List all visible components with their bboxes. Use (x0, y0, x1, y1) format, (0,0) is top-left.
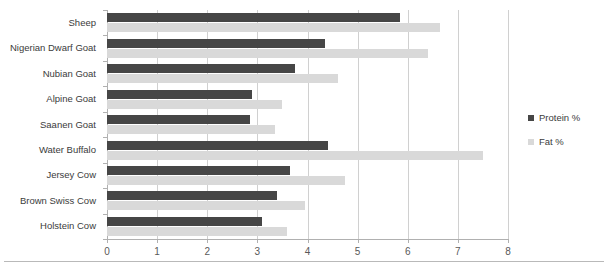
bar-fat[interactable] (107, 100, 282, 109)
bar-chart: SheepNigerian Dwarf GoatNubian GoatAlpin… (0, 0, 608, 270)
bar-fat[interactable] (107, 151, 483, 160)
bar-protein[interactable] (107, 13, 400, 22)
bar-protein[interactable] (107, 64, 295, 73)
x-tick-mark (458, 239, 459, 243)
category-label: Saanen Goat (40, 119, 96, 130)
x-tick-label: 3 (247, 246, 267, 257)
bar-group (107, 61, 508, 86)
bar-group (107, 214, 508, 239)
bottom-divider (4, 261, 604, 262)
legend-swatch-icon (528, 115, 534, 121)
bar-group (107, 137, 508, 162)
x-tick-label: 8 (498, 246, 518, 257)
legend-swatch-icon (528, 139, 534, 145)
bar-group (107, 163, 508, 188)
bar-protein[interactable] (107, 90, 252, 99)
bar-group (107, 188, 508, 213)
category-label: Nubian Goat (43, 68, 96, 79)
bar-fat[interactable] (107, 201, 305, 210)
x-tick-label: 5 (348, 246, 368, 257)
category-label: Water Buffalo (39, 144, 96, 155)
category-label: Brown Swiss Cow (20, 195, 96, 206)
gridline-8 (508, 10, 509, 239)
bar-protein[interactable] (107, 39, 325, 48)
bar-fat[interactable] (107, 227, 287, 236)
x-tick-mark (257, 239, 258, 243)
legend-item[interactable]: Fat % (528, 136, 580, 147)
category-label: Sheep (69, 17, 96, 28)
legend-label: Protein % (539, 112, 580, 123)
chart-legend: Protein %Fat % (528, 112, 580, 160)
bar-group (107, 86, 508, 111)
x-tick-mark (358, 239, 359, 243)
bar-protein[interactable] (107, 217, 262, 226)
plot-area (107, 10, 508, 239)
bar-fat[interactable] (107, 176, 345, 185)
x-tick-mark (308, 239, 309, 243)
category-label: Alpine Goat (46, 93, 96, 104)
bar-fat[interactable] (107, 23, 440, 32)
bar-group (107, 112, 508, 137)
bar-protein[interactable] (107, 115, 250, 124)
bar-fat[interactable] (107, 74, 338, 83)
category-label: Jersey Cow (46, 169, 96, 180)
x-tick-label: 1 (147, 246, 167, 257)
bar-group (107, 35, 508, 60)
category-label: Nigerian Dwarf Goat (10, 42, 96, 53)
x-tick-label: 4 (298, 246, 318, 257)
legend-item[interactable]: Protein % (528, 112, 580, 123)
category-label: Holstein Cow (40, 220, 96, 231)
x-tick-label: 6 (398, 246, 418, 257)
x-tick-mark (508, 239, 509, 243)
x-tick-label: 0 (97, 246, 117, 257)
x-tick-label: 7 (448, 246, 468, 257)
bar-fat[interactable] (107, 49, 428, 58)
x-tick-label: 2 (197, 246, 217, 257)
bar-protein[interactable] (107, 191, 277, 200)
bar-group (107, 10, 508, 35)
bar-protein[interactable] (107, 141, 328, 150)
bar-protein[interactable] (107, 166, 290, 175)
x-tick-mark (408, 239, 409, 243)
x-tick-mark (107, 239, 108, 243)
x-tick-mark (157, 239, 158, 243)
x-tick-mark (207, 239, 208, 243)
bar-fat[interactable] (107, 125, 275, 134)
legend-label: Fat % (539, 136, 564, 147)
